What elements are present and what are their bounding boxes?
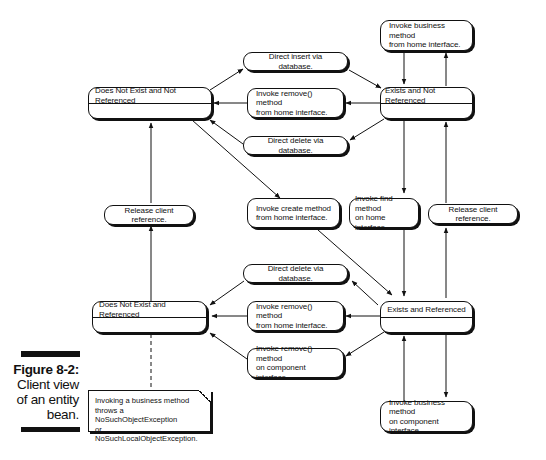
state-title: Does Not Exist and Referenced xyxy=(93,302,206,318)
arrow-e-r-to-direct-delete xyxy=(352,281,378,305)
action-label-line: on home interface. xyxy=(355,213,413,232)
action-label-line: from home interface. xyxy=(256,321,335,331)
arrow-direct-insert-to-e-nr xyxy=(349,70,381,88)
state-title: Does Not Exist and Not Referenced xyxy=(89,88,211,104)
figure-caption: Figure 8-2: Client view of an entity bea… xyxy=(10,362,79,422)
action-label-line: Invoke remove() method xyxy=(256,302,335,321)
action-label-line: from home interface. xyxy=(389,40,464,50)
action-direct-delete-bottom: Direct delete via database. xyxy=(243,264,348,283)
state-does-not-exist-not-referenced: Does Not Exist and Not Referenced xyxy=(88,87,212,119)
arrow-e-r-to-remove-component xyxy=(346,332,384,356)
state-does-not-exist-referenced: Does Not Exist and Referenced xyxy=(92,301,207,333)
action-release-right: Release client reference. xyxy=(428,204,518,224)
action-label-line: from home interface. xyxy=(256,213,331,223)
action-label-line: on component interface. xyxy=(389,417,464,436)
action-label: Direct insert via database. xyxy=(252,52,339,71)
caption-line: bean. xyxy=(10,407,79,422)
action-label: Direct delete via database. xyxy=(252,264,339,283)
action-label-line: Invoke find method xyxy=(355,194,413,213)
action-label: Release client reference. xyxy=(113,206,185,225)
action-business-home: Invoke business methodfrom home interfac… xyxy=(380,20,473,51)
action-label: Direct delete via database. xyxy=(252,136,339,155)
action-direct-delete-top: Direct delete via database. xyxy=(243,136,348,155)
action-label-line: from home interface. xyxy=(256,108,335,118)
action-create-home: Invoke create methodfrom home interface. xyxy=(247,198,340,228)
action-direct-insert: Direct insert via database. xyxy=(243,52,348,71)
note-line: throws a NoSuchObjectException xyxy=(95,406,204,425)
arrow-create-to-e-r xyxy=(318,230,392,295)
action-release-left: Release client reference. xyxy=(104,205,194,225)
arrow-dne-nr-to-direct-insert xyxy=(210,69,243,90)
action-remove-home-top: Invoke remove() methodfrom home interfac… xyxy=(247,88,344,118)
arrow-remove-component-to-dne-r xyxy=(210,333,247,359)
arrow-e-nr-to-direct-delete xyxy=(350,119,384,140)
arrow-direct-delete-to-dne-r xyxy=(210,281,244,305)
action-remove-component: Invoke remove() methodon component inter… xyxy=(247,348,344,378)
caption-rule-top xyxy=(21,351,80,357)
action-label-line: Invoke create method xyxy=(256,204,331,214)
caption-line: of an entity xyxy=(10,392,79,407)
note-line: Invoking a business method xyxy=(95,396,204,406)
state-title: Exists and Not Referenced xyxy=(381,88,472,104)
action-label-line: Invoke remove() method xyxy=(256,344,335,363)
action-label-line: Invoke business method xyxy=(389,21,464,40)
action-find-home: Invoke find methodon home interface. xyxy=(349,198,419,228)
action-label-line: Invoke remove() method xyxy=(256,89,335,108)
note-line: or NoSuchLocalObjectException. xyxy=(95,425,204,444)
action-label-line: Invoke business method xyxy=(389,398,464,417)
arrow-dne-nr-to-create xyxy=(192,120,280,198)
state-exists-referenced: Exists and Referenced xyxy=(380,301,473,333)
figure-label: Figure 8-2: xyxy=(10,362,79,377)
action-business-component: Invoke business methodon component inter… xyxy=(380,401,473,432)
state-title: Exists and Referenced xyxy=(381,302,472,318)
caption-rule-bottom xyxy=(21,427,80,432)
note-fold-icon xyxy=(199,390,211,402)
action-label: Release client reference. xyxy=(437,205,509,224)
action-label-line: on component interface. xyxy=(256,363,335,382)
state-exists-not-referenced: Exists and Not Referenced xyxy=(380,87,473,119)
action-remove-home-bottom: Invoke remove() methodfrom home interfac… xyxy=(247,301,344,331)
caption-line: Client view xyxy=(10,377,79,392)
exception-note: Invoking a business method throws a NoSu… xyxy=(88,390,211,432)
